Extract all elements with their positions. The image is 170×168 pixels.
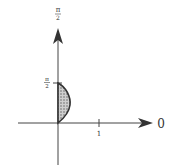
y-tick-numerator: π bbox=[45, 75, 49, 82]
diagram-canvas: π 2 π 2 1 0 bbox=[0, 0, 170, 168]
top-label-numerator: π bbox=[56, 6, 61, 14]
horizontal-axis-end-label: 0 bbox=[157, 117, 165, 131]
shaded-region bbox=[58, 83, 70, 123]
y-tick-denominator: 2 bbox=[45, 83, 49, 89]
x-tick-label: 1 bbox=[97, 130, 101, 138]
top-axis-label: π 2 bbox=[55, 6, 61, 21]
top-label-denominator: 2 bbox=[56, 14, 60, 21]
y-tick-label: π 2 bbox=[44, 75, 50, 89]
